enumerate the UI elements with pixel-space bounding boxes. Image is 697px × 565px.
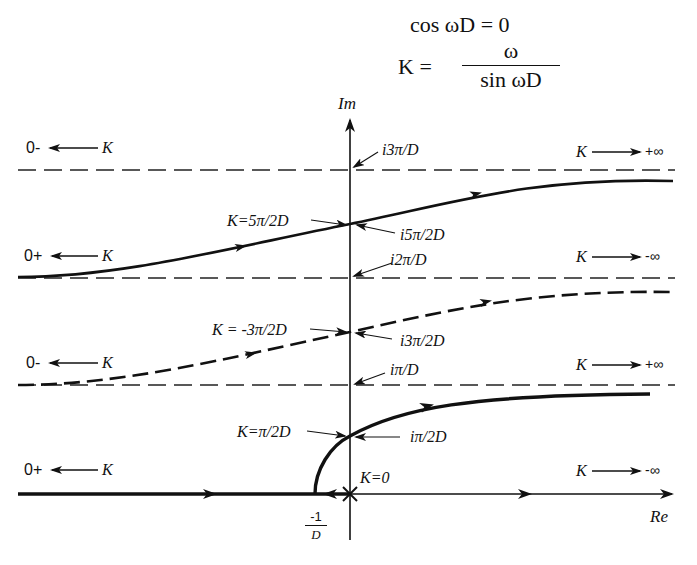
label-i2pi-D: i2π/D: [390, 252, 426, 268]
leader-ipi-D: [355, 373, 385, 384]
re-axis-label: Re: [650, 508, 668, 525]
leader-k-pi-2D: [307, 431, 345, 436]
left-limit-k: K: [102, 248, 113, 264]
left-limit-value: 0+: [24, 248, 42, 264]
label-i3pi-D: i3π/D: [382, 142, 418, 158]
label-k-zero: K=0: [360, 470, 389, 486]
leader-k-neg3pi-2D: [310, 329, 346, 332]
leader-k-5pi-2D: [311, 220, 346, 225]
label-k-5pi-2D: K=5π/2D: [227, 213, 288, 229]
locus-branch-3pi-2D: [18, 292, 673, 385]
right-limit-k: K: [576, 463, 587, 479]
right-limit-value: -∞: [645, 463, 660, 477]
label-k-pi-2D: K=π/2D: [237, 424, 290, 440]
leader-i2pi-D: [354, 263, 392, 276]
left-limit-value: 0-: [26, 355, 40, 371]
right-limit-value: -∞: [645, 249, 660, 263]
leader-i5pi-2D: [357, 225, 395, 233]
label-ipi-2D: iπ/2D: [410, 429, 446, 445]
neg1-numerator: -1: [305, 510, 327, 523]
left-limit-k: K: [102, 355, 113, 371]
label-neg-1-over-D: -1 D: [305, 510, 327, 541]
right-limit-k: K: [576, 144, 587, 160]
leader-i3pi-2D: [356, 333, 392, 339]
neg1-denominator: D: [305, 528, 327, 541]
im-axis-label: Im: [338, 95, 356, 112]
right-limit-k: K: [576, 357, 587, 373]
right-limit-value: +∞: [645, 357, 663, 371]
left-limit-value: 0+: [24, 462, 42, 478]
root-locus-plot: [0, 0, 697, 565]
right-limit-value: +∞: [645, 144, 663, 158]
leader-i3pi-D: [354, 152, 378, 167]
label-i5pi-2D: i5π/2D: [400, 227, 444, 243]
left-limit-k: K: [102, 462, 113, 478]
label-ipi-D: iπ/D: [390, 362, 418, 378]
fraction-bar: [305, 525, 327, 526]
locus-branch-5pi-2D: [18, 181, 673, 277]
right-limit-k: K: [576, 249, 587, 265]
left-limit-k: K: [102, 140, 113, 156]
asymptote-lines: [18, 170, 675, 385]
label-i3pi-2D: i3π/2D: [400, 333, 444, 349]
left-limit-value: 0-: [26, 140, 40, 156]
label-k-neg3pi-2D: K = -3π/2D: [212, 322, 287, 338]
